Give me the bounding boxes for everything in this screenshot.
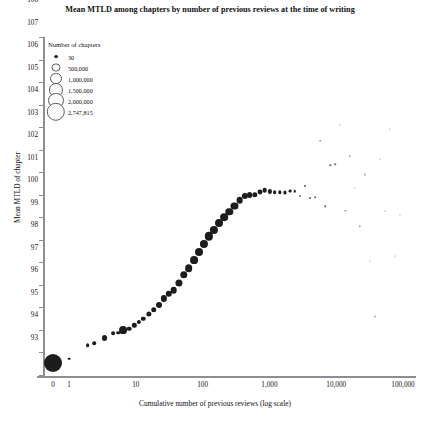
data-point [299,195,301,197]
data-point [283,191,286,194]
y-tick-label: 97 [12,244,38,252]
legend-item: 500,000 [48,62,140,73]
y-tick-mark [39,60,43,61]
data-point [151,307,157,313]
data-point [86,343,90,347]
legend-bubble-icon [52,63,61,72]
data-point [175,279,182,286]
legend-label: 1,500,000 [68,86,93,93]
y-tick-label: 99 [12,199,38,207]
y-tick-label: 101 [12,154,38,162]
legend-label: 1,000,000 [68,75,93,82]
data-point [400,214,401,215]
y-tick-mark [39,37,43,38]
scatter-chart: Mean MTLD among chapters by number of pr… [0,0,427,423]
data-point [309,197,311,199]
x-tick-label: 100,000 [391,381,414,389]
y-tick-label: 102 [12,131,38,139]
data-point [136,320,140,324]
y-tick-label: 106 [12,41,38,49]
data-point [185,264,193,272]
data-point [132,323,136,327]
y-tick-mark [39,172,43,173]
legend-label: 500,000 [68,64,88,71]
data-point [375,316,376,317]
y-tick-mark [39,352,43,353]
data-point [324,205,326,207]
y-tick-label: 96 [12,266,38,274]
data-point [278,191,281,194]
legend-item: 30 [48,51,140,62]
data-point [170,286,177,293]
x-tick-label: 1 [67,381,71,389]
data-point [146,312,151,317]
data-point [156,302,162,308]
legend-label: 2,000,000 [68,97,93,104]
data-point [210,226,218,234]
data-point [195,248,203,256]
data-point [160,295,166,301]
x-tick-label: 10,000 [326,381,346,389]
legend-item: 1,000,000 [48,73,140,84]
legend-label: 30 [68,53,74,60]
y-tick-mark [39,150,43,151]
data-point [190,256,198,264]
data-point [344,210,345,211]
data-point [339,124,340,125]
x-axis-line [37,376,416,378]
y-axis-ticks: 9394959697989910010110210310410510610710… [8,0,38,423]
x-axis-title: Cumulative number of previous reviews (l… [45,399,385,408]
legend-bubble-icon [54,55,58,59]
data-point [268,189,272,193]
data-point [359,226,360,227]
y-tick-mark [39,262,43,263]
data-point [68,357,71,360]
y-tick-label: 93 [12,334,38,342]
data-point [93,341,97,345]
chart-title: Mean MTLD among chapters by number of pr… [60,4,360,16]
y-tick-mark [39,285,43,286]
y-tick-label: 95 [12,289,38,297]
data-point [127,327,132,332]
y-tick-mark [39,195,43,196]
legend-label: 2,747,815 [68,108,93,115]
data-point [111,331,115,335]
y-tick-mark [39,307,43,308]
data-point [364,174,365,175]
y-tick-mark [39,240,43,241]
data-point [44,354,62,372]
data-point [395,255,396,256]
data-point [288,190,291,193]
data-point [390,129,391,130]
data-point [102,336,108,342]
data-point [200,240,208,248]
y-tick-label: 105 [12,64,38,72]
data-point [380,158,381,159]
data-point [141,316,145,320]
y-tick-mark [39,127,43,128]
y-tick-mark [39,375,43,376]
y-tick-label: 108 [12,0,38,4]
data-point [180,271,187,278]
x-tick-label: 100 [197,381,208,389]
legend-item: 2,747,815 [48,106,140,117]
legend-title: Number of chapters [48,41,140,48]
y-tick-mark [39,105,43,106]
y-tick-label: 94 [12,311,38,319]
y-tick-label: 98 [12,221,38,229]
x-tick-label: 1,000 [261,381,277,389]
y-tick-label: 103 [12,109,38,117]
y-tick-mark [39,217,43,218]
data-point [349,156,350,157]
data-point [294,190,297,193]
x-tick-label: 0 [51,381,55,389]
x-tick-label: 10 [132,381,139,389]
y-tick-mark [39,330,43,331]
data-point [314,196,316,198]
y-tick-label: 104 [12,86,38,94]
data-point [385,210,386,211]
data-point [329,165,331,167]
data-point [205,232,213,240]
legend: Number of chapters 30500,0001,000,0001,5… [48,41,140,117]
legend-entries: 30500,0001,000,0001,500,0002,000,0002,74… [48,51,140,117]
